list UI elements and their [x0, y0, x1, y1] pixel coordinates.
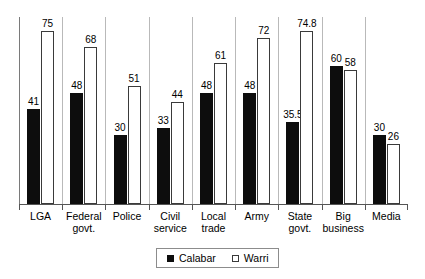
bar-calabar-army — [243, 93, 256, 204]
bar-chart: 41754868305133444861487235.574.860583026… — [0, 0, 425, 279]
bar-warri-lga — [41, 31, 54, 204]
group-separator — [192, 17, 193, 204]
group-separator — [322, 17, 323, 204]
bar-calabar-state-govt — [286, 122, 299, 204]
group-separator — [149, 17, 150, 204]
legend-label-calabar: Calabar — [179, 252, 216, 264]
bar-calabar-police — [114, 135, 127, 204]
bar-calabar-local-trade — [200, 93, 213, 204]
bar-value-label: 74.8 — [293, 18, 320, 29]
bar-warri-army — [257, 38, 270, 204]
hollow-square-icon — [232, 255, 239, 262]
bar-value-label: 72 — [250, 25, 277, 36]
chart-legend: Calabar Warri — [156, 248, 279, 268]
bar-value-label: 68 — [77, 34, 104, 45]
bar-warri-local-trade — [214, 63, 227, 204]
x-axis-line — [19, 204, 408, 205]
bar-calabar-big-business — [330, 66, 343, 205]
bar-warri-state-govt — [300, 31, 313, 204]
legend-label-warri: Warri — [244, 252, 269, 264]
group-separator — [62, 17, 63, 204]
bar-warri-media — [387, 144, 400, 204]
y-axis-line — [19, 17, 20, 204]
x-axis-label-media: Media — [359, 210, 414, 222]
bar-warri-police — [128, 86, 141, 204]
legend-item-warri: Warri — [232, 252, 269, 264]
bar-warri-civil-service — [171, 102, 184, 204]
bar-value-label: 51 — [121, 73, 148, 84]
group-separator — [365, 17, 366, 204]
bar-value-label: 26 — [380, 131, 407, 142]
bar-value-label: 58 — [337, 57, 364, 68]
group-separator — [105, 17, 106, 204]
bar-calabar-media — [373, 135, 386, 204]
bar-value-label: 44 — [164, 89, 191, 100]
group-separator — [235, 17, 236, 204]
bar-value-label: 75 — [34, 18, 61, 29]
bar-value-label: 61 — [207, 50, 234, 61]
bar-calabar-civil-service — [157, 128, 170, 204]
plot-area: 41754868305133444861487235.574.860583026 — [19, 17, 408, 204]
bar-warri-big-business — [344, 70, 357, 204]
bar-calabar-federal-govt — [70, 93, 83, 204]
bar-calabar-lga — [27, 109, 40, 204]
legend-item-calabar: Calabar — [167, 252, 216, 264]
bar-warri-federal-govt — [84, 47, 97, 204]
filled-square-icon — [167, 255, 174, 262]
